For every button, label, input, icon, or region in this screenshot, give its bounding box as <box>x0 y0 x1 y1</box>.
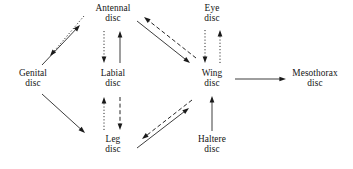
arrowhead-icon <box>118 31 123 38</box>
edge-leg-to-wing <box>137 108 189 148</box>
edge-genital-to-leg <box>42 94 85 133</box>
node-leg: Legdisc <box>105 135 120 155</box>
node-label-secondary: disc <box>202 79 223 89</box>
edge-line <box>137 21 186 60</box>
edge-line <box>42 29 76 65</box>
node-label-secondary: disc <box>105 145 120 155</box>
edge-line <box>42 94 81 129</box>
edge-wing-to-antennal <box>144 17 196 58</box>
arrowhead-icon <box>279 77 286 82</box>
edge-haltere-to-wing <box>210 96 215 131</box>
arrowhead-icon <box>210 96 215 103</box>
edge-labial-to-antennal <box>118 31 123 63</box>
edge-line <box>146 100 192 136</box>
node-labial: Labialdisc <box>101 69 125 89</box>
node-antennal: Antennaldisc <box>96 4 131 24</box>
node-eye: Eyedisc <box>204 4 219 24</box>
edge-line <box>148 20 196 58</box>
edge-line <box>137 111 185 148</box>
edge-antennal-to-genital <box>50 16 84 56</box>
node-label-secondary: disc <box>204 14 219 24</box>
arrowhead-icon <box>218 30 223 37</box>
node-label-secondary: disc <box>198 145 226 155</box>
node-genital: Genitaldisc <box>19 69 47 89</box>
edge-line <box>53 16 84 52</box>
arrowhead-icon <box>142 133 149 139</box>
arrowhead-icon <box>183 57 190 63</box>
edge-genital-to-antennal <box>42 25 80 65</box>
arrowhead-icon <box>102 97 107 104</box>
edge-leg-to-labial <box>102 97 107 130</box>
edge-wing-to-eye <box>218 30 223 63</box>
edge-eye-to-wing <box>203 30 208 63</box>
edge-antennal-to-labial <box>102 31 107 63</box>
node-haltere: Halteredisc <box>198 135 226 155</box>
arrowhead-icon <box>102 56 107 63</box>
arrowhead-icon <box>144 17 151 23</box>
edge-labial-to-leg <box>118 97 123 130</box>
edge-wing-to-leg <box>142 100 192 139</box>
edge-wing-to-mesothorax <box>235 77 286 82</box>
arrowhead-icon <box>182 108 189 114</box>
node-label-secondary: disc <box>19 79 47 89</box>
node-label-secondary: disc <box>292 79 337 89</box>
diagram-canvas: AntennaldiscEyediscGenitaldiscLabialdisc… <box>0 0 353 169</box>
edge-antennal-to-wing <box>137 21 190 63</box>
arrowhead-icon <box>203 56 208 63</box>
node-label-secondary: disc <box>96 14 131 24</box>
node-label-secondary: disc <box>101 79 125 89</box>
node-mesothorax: Mesothoraxdisc <box>292 69 337 89</box>
node-wing: Wingdisc <box>202 69 223 89</box>
arrowhead-icon <box>118 123 123 130</box>
